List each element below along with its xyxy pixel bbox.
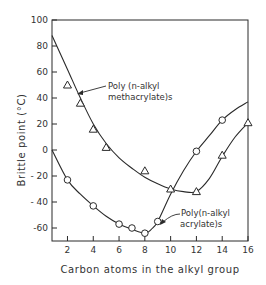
x-axis-title: Carbon atoms in the alkyl group <box>60 264 239 275</box>
x-tick-label: 14 <box>216 245 228 255</box>
y-tick-label: - 20 <box>30 171 48 181</box>
brittle-point-chart: 100806040200- 20- 40-60 246810121416 Pol… <box>0 0 266 285</box>
triangle-marker <box>244 119 252 126</box>
annotation-arrow-methacrylate <box>80 86 106 93</box>
y-tick-label: 60 <box>37 67 49 77</box>
methacrylate-curve <box>52 36 248 193</box>
x-tick-label: 8 <box>142 245 148 255</box>
circle-marker <box>142 230 149 237</box>
triangle-marker <box>63 81 71 88</box>
circle-marker <box>193 148 200 155</box>
y-axis-ticks: 100806040200- 20- 40-60 <box>30 15 57 233</box>
circle-marker <box>154 218 161 225</box>
x-tick-label: 12 <box>191 245 202 255</box>
annotations: Poly (n-alkyl methacrylate)s Poly(n-alky… <box>77 81 230 229</box>
y-tick-label: 20 <box>37 119 49 129</box>
circle-marker <box>64 177 71 184</box>
y-axis-title: Brittle point (°C) <box>16 94 27 187</box>
circle-marker <box>116 221 123 228</box>
annotation-acrylate-line1: Poly(n-alkyl <box>181 208 230 218</box>
triangle-marker <box>192 188 200 195</box>
annotation-arrow-acrylate <box>163 214 180 222</box>
x-tick-label: 6 <box>116 245 122 255</box>
annotation-methacrylate-line2: methacrylate)s <box>108 92 173 102</box>
series-curves <box>52 36 248 234</box>
triangle-marker <box>141 167 149 174</box>
x-tick-label: 16 <box>242 245 254 255</box>
y-tick-label: -60 <box>33 223 48 233</box>
y-tick-label: 80 <box>37 41 49 51</box>
circle-marker <box>90 203 97 210</box>
x-tick-label: 10 <box>165 245 177 255</box>
x-tick-label: 2 <box>65 245 71 255</box>
circle-marker <box>219 117 226 124</box>
y-tick-label: 0 <box>42 145 48 155</box>
x-tick-label: 4 <box>90 245 96 255</box>
x-axis-ticks: 246810121416 <box>65 236 254 255</box>
annotation-acrylate-line2: acrylate)s <box>180 219 223 229</box>
y-tick-label: 40 <box>37 93 49 103</box>
y-tick-label: - 40 <box>30 197 48 207</box>
annotation-methacrylate-line1: Poly (n-alkyl <box>108 81 159 91</box>
circle-marker <box>129 225 136 232</box>
y-tick-label: 100 <box>31 15 48 25</box>
